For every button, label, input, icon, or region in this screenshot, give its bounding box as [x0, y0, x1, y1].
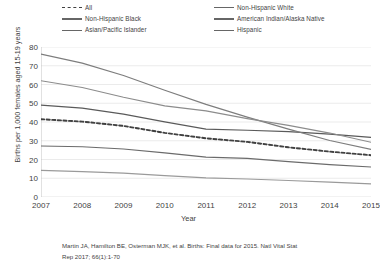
y-axis-tick-label: 10 [16, 174, 38, 183]
plot-area: Births per 1,000 females aged 15-19 year… [0, 38, 377, 210]
y-axis-tick-label: 40 [16, 118, 38, 127]
legend-label-american-indian-alaska-native: American Indian/Alaska Native [237, 16, 325, 22]
x-axis-tick-label: 2015 [362, 201, 380, 210]
series-line [41, 119, 371, 155]
x-axis-tick-label: 2009 [115, 201, 133, 210]
citation-line-1: Martin JA, Hamilton BE, Osterman MJK, et… [62, 240, 362, 251]
y-axis-tick-label: 70 [16, 61, 38, 70]
legend-label-hispanic: Hispanic [237, 27, 262, 33]
legend-item-american-indian-alaska-native: American Indian/Alaska Native [214, 16, 374, 22]
x-axis-ticks: 200720082009201020112012201320142015 [41, 198, 371, 214]
y-axis-tick-label: 80 [16, 43, 38, 52]
x-axis-tick-label: 2011 [197, 201, 214, 210]
legend-item-asian-pacific-islander: Asian/Pacific Islander [62, 27, 214, 33]
y-axis-tick-label: 60 [16, 80, 38, 89]
y-axis-tick-label: 20 [16, 155, 38, 164]
y-axis-ticks: 01020304050607080 [14, 38, 38, 210]
legend-label-non-hispanic-black: Non-Hispanic Black [85, 16, 141, 22]
citation-line-2: Rep 2017; 66(1):1-70 [62, 251, 362, 262]
x-axis-tick-label: 2013 [280, 201, 298, 210]
x-axis-label: Year [0, 214, 377, 223]
y-axis-tick-label: 50 [16, 99, 38, 108]
legend-item-non-hispanic-white: Non-Hispanic White [214, 5, 374, 11]
legend-item-non-hispanic-black: Non-Hispanic Black [62, 16, 214, 22]
legend-label-non-hispanic-white: Non-Hispanic White [237, 5, 294, 11]
legend-label-asian-pacific-islander: Asian/Pacific Islander [85, 27, 147, 33]
x-axis-tick-label: 2010 [156, 201, 174, 210]
chart-legend: All Non-Hispanic White Non-Hispanic Blac… [62, 2, 374, 36]
x-axis-tick-label: 2008 [73, 201, 91, 210]
chart-canvas [41, 47, 371, 197]
legend-label-all: All [85, 5, 92, 11]
source-citation: Martin JA, Hamilton BE, Osterman MJK, et… [62, 240, 362, 263]
x-axis-tick-label: 2012 [238, 201, 256, 210]
legend-item-hispanic: Hispanic [214, 27, 374, 33]
series-line [41, 146, 371, 167]
y-axis-tick-label: 30 [16, 136, 38, 145]
series-line [41, 81, 371, 143]
x-axis-tick-label: 2007 [32, 201, 50, 210]
legend-item-all: All [62, 5, 214, 11]
x-axis-tick-label: 2014 [321, 201, 339, 210]
series-line [41, 54, 371, 149]
series-line [41, 170, 371, 184]
series-line [41, 105, 371, 137]
